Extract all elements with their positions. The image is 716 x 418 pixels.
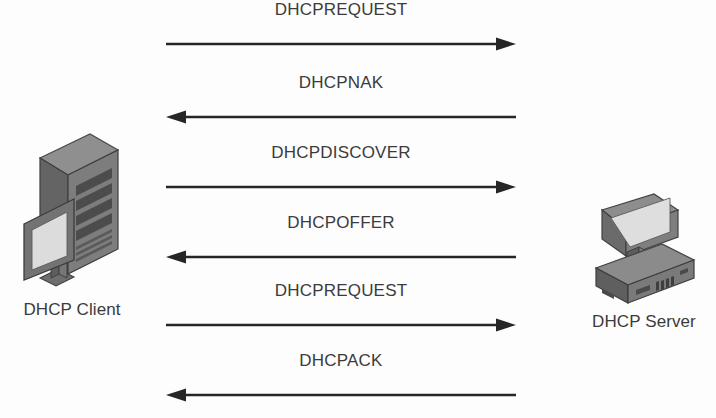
message-label: DHCPACK — [160, 351, 522, 371]
node-dhcp-client: DHCP Client — [2, 128, 142, 320]
message-label: DHCPREQUEST — [160, 281, 522, 301]
message-label: DHCPREQUEST — [160, 0, 522, 20]
arrow-left-icon — [160, 387, 522, 403]
message-label: DHCPNAK — [160, 73, 522, 93]
message-label: DHCPOFFER — [160, 213, 522, 233]
desktop-tower-computer-icon — [18, 128, 126, 296]
message-label: DHCPDISCOVER — [160, 143, 522, 163]
message-row: DHCPNAK — [160, 73, 522, 125]
node-dhcp-server: DHCP Server — [574, 186, 714, 332]
message-row: DHCPACK — [160, 351, 522, 403]
arrow-left-icon — [160, 249, 522, 265]
message-row: DHCPREQUEST — [160, 281, 522, 333]
server-label: DHCP Server — [574, 312, 714, 332]
message-row: DHCPOFFER — [160, 213, 522, 265]
dhcp-sequence-diagram: DHCP Client — [0, 0, 716, 418]
client-label: DHCP Client — [2, 300, 142, 320]
arrow-right-icon — [160, 36, 522, 52]
message-row: DHCPDISCOVER — [160, 143, 522, 195]
message-row: DHCPREQUEST — [160, 0, 522, 52]
server-desktop-computer-icon — [584, 186, 704, 306]
arrow-right-icon — [160, 317, 522, 333]
arrow-left-icon — [160, 109, 522, 125]
arrow-right-icon — [160, 179, 522, 195]
